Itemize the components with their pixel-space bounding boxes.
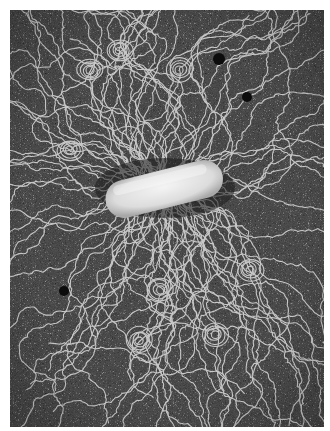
micrograph-image xyxy=(10,10,324,427)
micrograph-frame xyxy=(10,10,324,427)
